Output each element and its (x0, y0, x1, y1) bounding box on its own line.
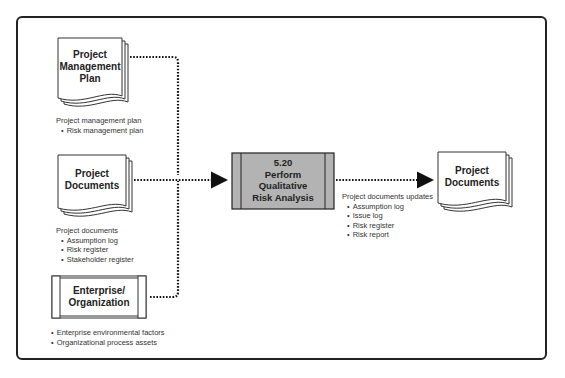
caption-item: Risk register (56, 245, 134, 255)
label-line: Project (58, 49, 122, 61)
caption-item: Issue log (342, 211, 433, 221)
caption-item: Risk report (342, 230, 433, 240)
label-line: Perform (241, 169, 325, 181)
label-line: Documents (58, 180, 126, 192)
caption-title: Project documents updates (342, 192, 433, 202)
caption-list: Risk management plan (56, 126, 143, 136)
label-line: Organization (60, 297, 138, 309)
node-project-documents-output: Project Documents (438, 165, 506, 189)
caption-project-management-plan: Project management plan Risk management … (56, 116, 143, 135)
caption-title: Project management plan (56, 116, 143, 126)
label-line: Management (58, 61, 122, 73)
caption-item: Risk management plan (56, 126, 143, 136)
label-line: Plan (58, 73, 122, 85)
label-line: Project (58, 168, 126, 180)
label-line: Risk Analysis (241, 192, 325, 204)
caption-list: Assumption log Issue log Risk register R… (342, 202, 433, 240)
node-process: 5.20 Perform Qualitative Risk Analysis (241, 157, 325, 203)
caption-item: Assumption log (342, 202, 433, 212)
label-line: Documents (438, 177, 506, 189)
caption-project-documents-input: Project documents Assumption log Risk re… (56, 226, 134, 264)
node-project-documents-input: Project Documents (58, 168, 126, 192)
label-line: Qualitative (241, 180, 325, 192)
caption-item: Stakeholder register (56, 255, 134, 265)
caption-item: Risk register (342, 221, 433, 231)
node-project-management-plan: Project Management Plan (58, 49, 122, 85)
label-line: Project (438, 165, 506, 177)
label-line: Enterprise/ (60, 285, 138, 297)
caption-item: Organizational process assets (51, 338, 165, 348)
process-number: 5.20 (241, 157, 325, 169)
caption-title: Project documents (56, 226, 134, 236)
caption-project-documents-output: Project documents updates Assumption log… (342, 192, 433, 240)
caption-list: Assumption log Risk register Stakeholder… (56, 236, 134, 265)
caption-list: Enterprise environmental factors Organiz… (51, 328, 165, 347)
node-enterprise-organization: Enterprise/ Organization (60, 285, 138, 309)
caption-item: Enterprise environmental factors (51, 328, 165, 338)
caption-enterprise-organization: Enterprise environmental factors Organiz… (51, 328, 165, 347)
caption-item: Assumption log (56, 236, 134, 246)
